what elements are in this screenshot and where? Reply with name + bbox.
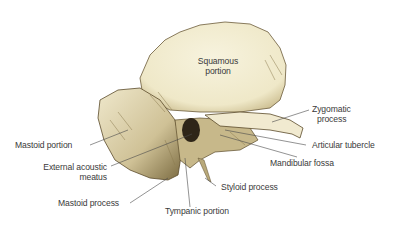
label-mandibular-fossa: Mandibular fossa (270, 158, 334, 168)
label-zygomatic-process: Zygomatic process (312, 104, 351, 124)
label-mastoid-portion: Mastoid portion (15, 140, 72, 150)
external-acoustic-meatus (182, 118, 200, 142)
temporal-bone-figure: Squamous portion Zygomatic process Artic… (0, 0, 399, 228)
label-articular-tubercle: Articular tubercle (312, 140, 375, 150)
label-squamous-portion: Squamous portion (188, 56, 248, 76)
label-external-acoustic-meatus: External acoustic meatus (25, 162, 107, 182)
label-styloid-process: Styloid process (221, 182, 278, 192)
label-tympanic-portion: Tympanic portion (165, 206, 229, 216)
styloid-region (198, 158, 211, 182)
label-mastoid-process: Mastoid process (58, 198, 119, 208)
